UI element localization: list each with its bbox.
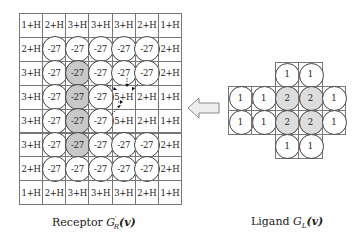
ligand-cell: 1 xyxy=(251,86,275,111)
left-arrow-icon xyxy=(187,97,221,119)
receptor-cell: -27 xyxy=(65,133,89,158)
receptor-cell: -27 xyxy=(135,37,159,62)
receptor-cell: -27 xyxy=(135,133,159,158)
receptor-cell: 3+H xyxy=(65,180,89,205)
receptor-caption-label: Receptor xyxy=(52,216,106,229)
receptor-cell: 2+H xyxy=(135,180,159,205)
ligand-cell: 1 xyxy=(275,134,299,159)
receptor-cell: -27 xyxy=(135,156,159,181)
receptor-cell: 2+H xyxy=(158,156,182,181)
ligand-cell: 1 xyxy=(322,86,346,111)
receptor-cell: 3+H xyxy=(65,13,89,38)
ligand-cell: 2 xyxy=(275,110,299,135)
receptor-cell: 3+H xyxy=(19,109,43,134)
receptor-cell: 2+H xyxy=(42,13,66,38)
receptor-cell: 1+H xyxy=(158,13,182,38)
receptor-cell: 3+H xyxy=(19,61,43,86)
receptor-cell: -27 xyxy=(42,61,66,86)
receptor-cell: 2+H xyxy=(42,180,66,205)
receptor-cell: -27 xyxy=(88,133,112,158)
receptor-cell: 3+H xyxy=(19,85,43,110)
receptor-cell: 1+H xyxy=(158,109,182,134)
ligand-cell: 1 xyxy=(228,110,252,135)
receptor-cell: 1+H xyxy=(19,13,43,38)
receptor-cell: -27 xyxy=(88,37,112,62)
receptor-cell: 2+H xyxy=(135,13,159,38)
receptor-cell: -27 xyxy=(65,85,89,110)
ligand-cell: 2 xyxy=(298,110,322,135)
ligand-cell: 1 xyxy=(298,62,322,87)
receptor-cell: 2+H xyxy=(158,61,182,86)
receptor-cell: -27 xyxy=(42,109,66,134)
receptor-cell: -27 xyxy=(42,156,66,181)
receptor-cell: 2+H xyxy=(19,37,43,62)
receptor-caption-symbol: G′R(v) xyxy=(106,216,135,229)
receptor-cell: -27 xyxy=(112,37,136,62)
receptor-cell: 3+H xyxy=(19,133,43,158)
receptor-cell: -27 xyxy=(112,133,136,158)
receptor-cell: -27 xyxy=(42,85,66,110)
ligand-cell: 1 xyxy=(275,62,299,87)
receptor-cell: -27 xyxy=(88,156,112,181)
ligand-cell: 1 xyxy=(228,86,252,111)
receptor-cell: 3+H xyxy=(88,180,112,205)
receptor-caption: Receptor G′R(v) xyxy=(52,215,136,231)
receptor-cell: -27 xyxy=(65,109,89,134)
receptor-cell: -27 xyxy=(65,61,89,86)
receptor-cell: -27 xyxy=(65,37,89,62)
receptor-cell: -27 xyxy=(42,37,66,62)
receptor-cell: 3+H xyxy=(112,180,136,205)
ligand-cell: 1 xyxy=(322,110,346,135)
receptor-cell: 1+H xyxy=(158,180,182,205)
receptor-cell: 1+H xyxy=(158,85,182,110)
ligand-caption-symbol: GL(v) xyxy=(293,215,323,228)
receptor-cell: -27 xyxy=(42,133,66,158)
ligand-caption: Ligand GL(v) xyxy=(251,215,323,230)
ligand-cell: 2 xyxy=(275,86,299,111)
receptor-cell: 2+H xyxy=(19,156,43,181)
receptor-cell: 2+H xyxy=(158,133,182,158)
ligand-cell: 1 xyxy=(298,134,322,159)
ligand-cell: 1 xyxy=(251,110,275,135)
receptor-cell: -27 xyxy=(112,156,136,181)
receptor-cell: 2+H xyxy=(158,37,182,62)
receptor-cell: -27 xyxy=(65,156,89,181)
ligand-cell: 2 xyxy=(298,86,322,111)
receptor-cell: 1+H xyxy=(19,180,43,205)
ligand-caption-label: Ligand xyxy=(251,215,293,228)
receptor-cell: 3+H xyxy=(88,13,112,38)
receptor-cell: 3+H xyxy=(112,13,136,38)
